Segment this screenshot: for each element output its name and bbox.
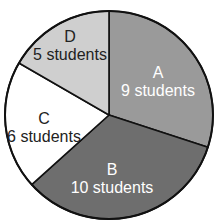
slice-label-d-count: 5 students <box>33 46 107 63</box>
pie-chart: A9 studentsB10 studentsC6 studentsD5 stu… <box>0 0 215 222</box>
slice-label-b-name: B <box>107 161 118 178</box>
slice-label-a-name: A <box>153 64 164 81</box>
slice-label-d-name: D <box>64 28 76 45</box>
slice-label-c-name: C <box>38 110 50 127</box>
slice-label-c-count: 6 students <box>7 128 81 145</box>
slice-label-a-count: 9 students <box>121 82 195 99</box>
slice-label-b-count: 10 students <box>71 179 154 196</box>
